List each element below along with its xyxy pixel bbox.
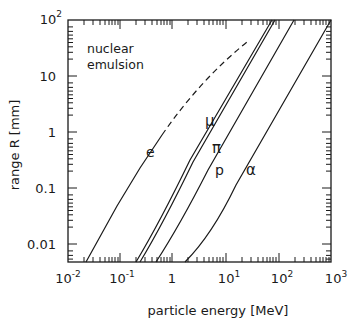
label-pion: π [212, 139, 221, 157]
xtick-10: 101 [218, 269, 240, 286]
label-electron: e [146, 144, 155, 160]
range-energy-chart: e μ π p α nuclear emulsion 102 10 1 0.1 … [0, 0, 359, 328]
label-alpha: α [246, 161, 256, 179]
xtick-0-01: 10-2 [55, 269, 81, 286]
ytick-100: 102 [40, 9, 62, 27]
ytick-1: 1 [48, 125, 56, 140]
xtick-1000: 103 [325, 269, 347, 286]
annotation-nuclear: nuclear [87, 41, 135, 56]
x-axis-title: particle energy [MeV] [148, 303, 289, 318]
xtick-100: 102 [271, 269, 293, 286]
curve-proton [156, 20, 294, 262]
x-tick-labels: 10-2 10-1 1 101 102 103 [55, 269, 347, 286]
y-tick-labels: 102 10 1 0.1 0.01 [27, 9, 62, 252]
annotation-emulsion: emulsion [87, 57, 144, 72]
xtick-0-1: 10-1 [109, 269, 135, 286]
xtick-1: 1 [168, 271, 176, 286]
label-muon: μ [205, 112, 215, 130]
ytick-10: 10 [39, 69, 56, 84]
ytick-0-1: 0.1 [35, 181, 56, 196]
ytick-0-01: 0.01 [27, 237, 56, 252]
curve-muon [136, 20, 272, 262]
curve-pion [140, 20, 275, 262]
label-proton: p [215, 162, 224, 178]
y-axis-title: range R [mm] [7, 100, 22, 191]
curve-alpha [185, 20, 331, 262]
